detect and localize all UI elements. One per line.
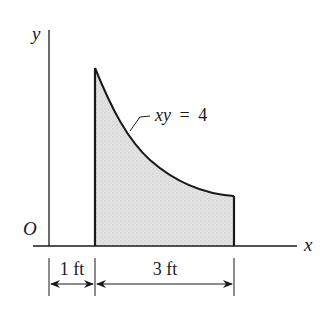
equation-leader-line xyxy=(130,116,150,131)
x-axis-label: x xyxy=(303,234,313,255)
area-diagram: y x O xy = 4 1 ft 3 ft xyxy=(0,0,334,309)
equation-rhs: 4 xyxy=(198,105,207,125)
dim-label-1ft: 1 ft xyxy=(60,259,85,279)
equation-equals: = xyxy=(179,105,189,125)
equation-lhs: xy xyxy=(154,105,171,125)
origin-label: O xyxy=(23,218,37,239)
equation-label: xy = 4 xyxy=(154,105,207,125)
y-axis-label: y xyxy=(30,23,41,44)
shaded-area xyxy=(95,68,234,246)
dim-label-3ft: 3 ft xyxy=(153,259,178,279)
